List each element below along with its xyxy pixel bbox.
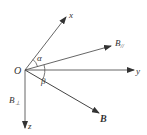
x-axis	[25, 17, 66, 70]
b-label-text: B	[99, 113, 107, 124]
beta-label: β	[40, 76, 46, 86]
b-perp-sub: ⊥	[15, 100, 20, 106]
b-label: B	[99, 113, 107, 124]
vector-diagram: O x y z α β B B// B⊥	[0, 0, 147, 135]
z-axis-label: z	[27, 121, 32, 131]
b-perp-label: B⊥	[9, 95, 20, 106]
alpha-label: α	[37, 53, 42, 63]
x-axis-label: x	[68, 10, 73, 20]
origin-label: O	[14, 65, 21, 76]
y-axis-label: y	[135, 66, 140, 76]
b-parallel-label: B//	[115, 38, 125, 49]
b-vector	[25, 70, 99, 113]
b-parallel-sub: //	[120, 43, 126, 49]
